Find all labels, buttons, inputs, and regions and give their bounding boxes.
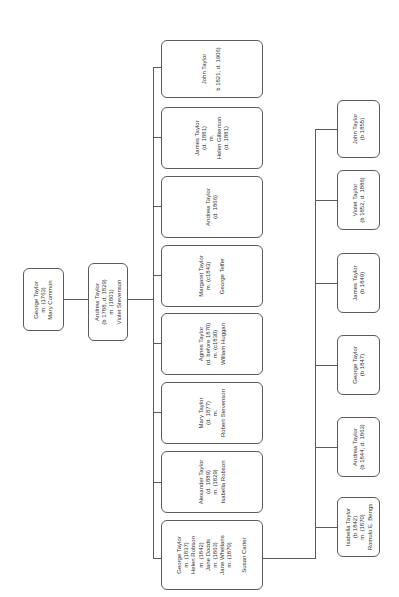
person-label: Agnes Taylor (d. before 1870) m. (c1830)…: [198, 323, 227, 366]
line: m. (1829): [212, 460, 219, 505]
line: James Taylor: [194, 117, 201, 160]
line: Jane Whellans: [219, 535, 226, 574]
line: (d. 1889): [205, 460, 212, 505]
grandchild-box-isabella-taylor: Isabella Taylor (b 1842) m. (1870) Romul…: [337, 497, 380, 557]
line: (d. 1877): [205, 389, 212, 437]
line: Mary Taylor: [198, 389, 205, 437]
person-label: James Taylor (b 1849): [351, 265, 365, 300]
person-label: Andrew Taylor (d. 1866): [205, 188, 219, 226]
line: m. (c1830): [212, 323, 219, 366]
line: (d. 1881): [223, 117, 230, 160]
person-label: George Taylor (b 1847): [351, 346, 365, 384]
person-label: Andrew Taylor (b 1788, d. 1829) m. (1801…: [94, 279, 123, 325]
line: Helen Robson: [190, 535, 197, 574]
line: Romulo E. Bengs: [366, 504, 373, 551]
line: m.: [212, 389, 219, 437]
line: James Taylor: [351, 265, 358, 300]
line: Susan Carter: [241, 535, 248, 574]
line: William Huggan: [219, 323, 226, 366]
person-label: John Taylor (b 1855): [351, 114, 365, 145]
person-box-andrew-taylor-parent: Andrew Taylor (b 1788, d. 1829) m. (1801…: [88, 263, 128, 341]
spouse-text: Mary Common: [47, 280, 54, 319]
line: George Taylor: [176, 535, 183, 574]
line: (d. before 1870): [205, 323, 212, 366]
person-label: Andrew Taylor (b 1844, d. 1863): [351, 424, 365, 470]
child-box-margaret-taylor: Margaret Taylor m. (c1843) George Telfer: [161, 245, 263, 307]
child-box-alexander-taylor: Alexander Taylor (d. 1889) m. (1829) Isa…: [161, 451, 263, 513]
line: (b 1844, d. 1863): [359, 424, 366, 470]
grandchildren-spine: [315, 129, 316, 559]
line: Robert Stevenson: [219, 389, 226, 437]
line: [212, 255, 219, 297]
name-text: George Taylor: [33, 280, 40, 319]
person-label: John Taylor b 1821, d. 1906): [201, 47, 222, 91]
connector-grandchild-1: [315, 200, 337, 201]
line: Alexander Taylor: [198, 460, 205, 505]
connector-grandchild-5: [315, 527, 337, 528]
line: (b 1849): [359, 265, 366, 300]
person-box-george-taylor-root: George Taylor m. (1763) Mary Common: [23, 268, 64, 331]
dates-text: (b 1788, d. 1829): [101, 279, 108, 325]
person-label: Mary Taylor (d. 1877) m. Robert Stevenso…: [198, 389, 227, 437]
line: m. (1870): [227, 535, 234, 574]
connector-child-2: [153, 206, 161, 207]
child-box-john-taylor: John Taylor b 1821, d. 1906): [161, 40, 263, 98]
connector-child-7: [153, 558, 161, 559]
connector-child-4: [153, 343, 161, 344]
line: Isabella Taylor: [344, 504, 351, 551]
connector-child-0: [153, 67, 161, 68]
child-box-mary-taylor: Mary Taylor (d. 1877) m. Robert Stevenso…: [161, 382, 263, 444]
line: George Telfer: [219, 255, 226, 297]
line: Jane Dodds: [205, 535, 212, 574]
person-label: George Taylor m. (1837) Helen Robson m. …: [176, 535, 248, 574]
connector-child-3: [153, 275, 161, 276]
grandchild-box-george-taylor: George Taylor (b 1847): [337, 335, 380, 395]
line: m. (1870): [359, 504, 366, 551]
connector-child-5: [153, 412, 161, 413]
name-text: Andrew Taylor: [94, 279, 101, 325]
connector-grandchild-2: [315, 283, 337, 284]
connector-parent-to-spine: [128, 299, 153, 300]
line: (d. 1866): [212, 188, 219, 226]
spouse-text: Violet Stevenson: [115, 279, 122, 325]
line: m.: [208, 117, 215, 160]
line: (b 1855): [359, 114, 366, 145]
line: John Taylor: [351, 114, 358, 145]
connector-grandchild-0: [315, 129, 337, 130]
line: (b 1842): [351, 504, 358, 551]
line: Andrew Taylor: [205, 188, 212, 226]
connector-grandchild-3: [315, 365, 337, 366]
person-label: James Taylor (d. 1881) m. Helen Gilkerso…: [194, 117, 230, 160]
child-box-andrew-taylor: Andrew Taylor (d. 1866): [161, 176, 263, 238]
line: Agnes Taylor: [198, 323, 205, 366]
line: b 1821, d. 1906): [216, 47, 223, 91]
person-label: George Taylor m. (1763) Mary Common: [33, 280, 55, 319]
line: [234, 535, 241, 574]
connector-child-1: [153, 137, 161, 138]
grandchild-box-james-taylor: James Taylor (b 1849): [337, 253, 380, 313]
line: m. (1863): [212, 535, 219, 574]
line: (b 1847): [359, 346, 366, 384]
line: (d. 1881): [201, 117, 208, 160]
line: (b 1852, d. 1886): [359, 177, 366, 223]
person-label: Violet Taylor (b 1852, d. 1886): [351, 177, 365, 223]
line: Helen Gilkerson: [216, 117, 223, 160]
grandchild-box-john-taylor: John Taylor (b 1855): [337, 100, 380, 158]
connector-root-to-parent: [64, 299, 88, 300]
line: Margaret Taylor: [198, 255, 205, 297]
line: John Taylor: [201, 47, 208, 91]
line: George Taylor: [351, 346, 358, 384]
line: Violet Taylor: [351, 177, 358, 223]
line: m. (1837): [183, 535, 190, 574]
line: Andrew Taylor: [351, 424, 358, 470]
line: [209, 47, 216, 91]
person-label: Margaret Taylor m. (c1843) George Telfer: [198, 255, 227, 297]
connector-grandchild-4: [315, 447, 337, 448]
line: m. (1842): [198, 535, 205, 574]
person-label: Isabella Taylor (b 1842) m. (1870) Romul…: [344, 504, 373, 551]
child-box-james-taylor: James Taylor (d. 1881) m. Helen Gilkerso…: [161, 107, 263, 169]
grandchild-box-violet-taylor: Violet Taylor (b 1852, d. 1886): [337, 170, 380, 230]
line: m. (c1843): [205, 255, 212, 297]
child-box-agnes-taylor: Agnes Taylor (d. before 1870) m. (c1830)…: [161, 313, 263, 375]
children-spine: [153, 67, 154, 558]
